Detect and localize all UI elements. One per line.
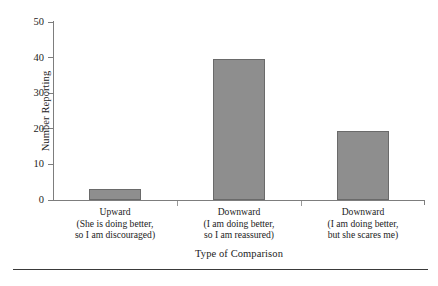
category-label-line: but she scares me) [301, 229, 425, 241]
footer-rule [13, 269, 428, 270]
bar-3 [337, 131, 389, 200]
y-axis-title: Number Reporting [40, 71, 51, 152]
y-tick-label-50: 50 [34, 17, 45, 28]
y-tick-label-10: 10 [34, 159, 45, 170]
category-label-line: (I am doing better, [301, 218, 425, 230]
category-label-line: so I am discouraged) [53, 229, 177, 241]
category-label-line: (She is doing better, [53, 218, 177, 230]
category-label-1: Upward(She is doing better,so I am disco… [53, 203, 177, 247]
x-axis-category-labels: Upward(She is doing better,so I am disco… [53, 203, 425, 247]
category-label-3: Downward(I am doing better,but she scare… [301, 203, 425, 247]
category-label-line: Downward [177, 206, 301, 218]
category-label-2: Downward(I am doing better,so I am reass… [177, 203, 301, 247]
plot-area [53, 22, 425, 200]
bar-1 [89, 189, 141, 200]
bar-chart-figure: 01020304050 Number Reporting Type of Com… [0, 0, 438, 286]
category-label-line: Upward [53, 206, 177, 218]
y-tick-label-0: 0 [39, 195, 44, 206]
category-label-line: (I am doing better, [177, 218, 301, 230]
x-axis-line [53, 200, 425, 201]
bar-2 [213, 59, 265, 200]
category-label-line: so I am reassured) [177, 229, 301, 241]
category-label-line: Downward [301, 206, 425, 218]
y-tick-label-40: 40 [34, 52, 45, 63]
x-axis-title: Type of Comparison [53, 248, 425, 259]
